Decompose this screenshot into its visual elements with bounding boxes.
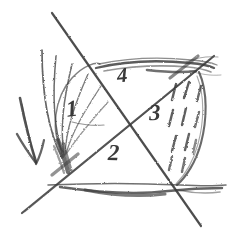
region-label-3: 3 <box>149 101 161 124</box>
sketch-drawing <box>0 0 230 237</box>
region-label-4: 4 <box>116 65 128 87</box>
paper-texture <box>0 0 230 237</box>
region-label-2: 2 <box>108 141 120 164</box>
sketch-canvas: 1 2 3 4 <box>0 0 230 237</box>
